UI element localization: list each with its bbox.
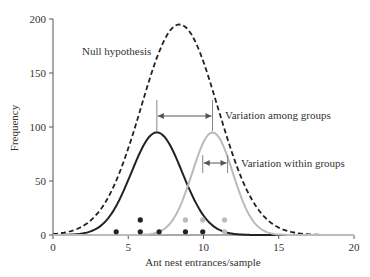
x-tick-label: 10 (198, 241, 210, 253)
data-point (222, 217, 227, 222)
data-point (222, 229, 227, 234)
data-point (138, 229, 143, 234)
annotations (157, 100, 228, 173)
x-axis-label: Ant nest entrances/sample (145, 256, 261, 268)
y-tick-label: 100 (30, 121, 47, 133)
arrow-head-right-icon (221, 160, 227, 166)
null-hypothesis-label: Null hypothesis (82, 45, 151, 57)
data-point (114, 229, 119, 234)
data-point (157, 229, 162, 234)
data-point (138, 217, 143, 222)
axes: 05101520050100150200 (30, 13, 361, 253)
normal-distribution-chart: 05101520050100150200 Null hypothesis Var… (0, 0, 370, 277)
data-point (200, 217, 205, 222)
x-tick-label: 15 (273, 241, 285, 253)
y-tick-label: 50 (35, 175, 47, 187)
data-point (200, 229, 205, 234)
x-tick-label: 5 (126, 241, 132, 253)
y-tick-label: 200 (30, 13, 47, 25)
arrow-head-left-icon (204, 160, 210, 166)
variation-within-groups-label: Variation within groups (241, 157, 345, 169)
variation-among-groups-label: Variation among groups (225, 109, 331, 121)
x-tick-label: 0 (50, 241, 56, 253)
data-point (183, 229, 188, 234)
variation-among-groups-arrow (157, 100, 213, 131)
y-tick-label: 150 (30, 67, 47, 79)
x-tick-label: 20 (349, 241, 361, 253)
arrow-head-left-icon (158, 113, 164, 119)
data-point (183, 217, 188, 222)
variation-within-groups-arrow (203, 155, 228, 173)
y-axis-label: Frequency (8, 104, 20, 151)
y-tick-label: 0 (41, 229, 47, 241)
data-points (114, 217, 228, 234)
arrow-head-right-icon (206, 113, 212, 119)
